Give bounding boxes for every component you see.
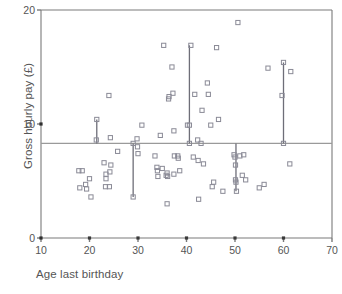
data-point-marker [257, 186, 261, 190]
data-point-marker [172, 172, 176, 176]
data-point-marker [135, 137, 139, 141]
data-point-marker [205, 81, 209, 85]
axis-ticks [37, 10, 332, 242]
scatter-plot-figure: 10203040506070 01020 Age last birthday G… [0, 0, 342, 294]
data-point-marker [136, 152, 140, 156]
data-point-marker [236, 20, 240, 24]
data-point-marker [160, 166, 164, 170]
data-point-marker [216, 117, 220, 121]
data-point-marker [158, 133, 162, 137]
data-point-marker [206, 92, 210, 96]
data-point-marker [196, 158, 200, 162]
data-point-marker [104, 177, 108, 181]
data-point-marker [140, 123, 144, 127]
y-tick-label: 0 [9, 232, 35, 244]
plot-canvas [0, 0, 342, 294]
data-point-marker [288, 162, 292, 166]
data-point-marker [210, 185, 214, 189]
data-point-marker [172, 129, 176, 133]
data-point-marker [89, 195, 93, 199]
data-point-marker [212, 180, 216, 184]
data-point-marker [84, 187, 88, 191]
data-point-marker [165, 202, 169, 206]
data-point-marker [102, 161, 106, 165]
data-point-marker [289, 69, 293, 73]
connector-lines [97, 45, 284, 197]
data-point-marker [193, 92, 197, 96]
data-point-marker [156, 174, 160, 178]
x-tick-label: 70 [326, 244, 338, 256]
data-point-marker [135, 145, 139, 149]
y-axis-title: Gross hourly pay (£) [22, 16, 34, 216]
data-point-marker [109, 163, 113, 167]
data-point-marker [153, 154, 157, 158]
plot-frame [41, 10, 332, 238]
y-tick-label: 20 [9, 4, 35, 16]
data-point-marker [266, 66, 270, 70]
data-point-marker [191, 155, 195, 159]
data-point-marker [170, 65, 174, 69]
data-point-marker [262, 182, 266, 186]
x-axis-title: Age last birthday [36, 268, 123, 280]
x-tick-label: 10 [35, 244, 47, 256]
data-point-marker [209, 123, 213, 127]
data-point-marker [178, 169, 182, 173]
data-point-marker [162, 43, 166, 47]
data-point-marker [116, 149, 120, 153]
data-point-marker [214, 46, 218, 50]
data-point-marker [108, 136, 112, 140]
x-tick-label: 60 [278, 244, 290, 256]
data-points [77, 20, 293, 205]
data-point-marker [201, 162, 205, 166]
x-tick-label: 20 [84, 244, 96, 256]
x-tick-label: 50 [229, 244, 241, 256]
data-point-marker [244, 178, 248, 182]
data-point-marker [107, 93, 111, 97]
data-point-marker [221, 189, 225, 193]
data-point-marker [197, 197, 201, 201]
data-point-marker [78, 186, 82, 190]
data-point-marker [240, 173, 244, 177]
data-point-marker [87, 177, 91, 181]
data-point-marker [200, 108, 204, 112]
x-tick-label: 40 [181, 244, 193, 256]
data-point-marker [84, 182, 88, 186]
x-tick-label: 30 [132, 244, 144, 256]
